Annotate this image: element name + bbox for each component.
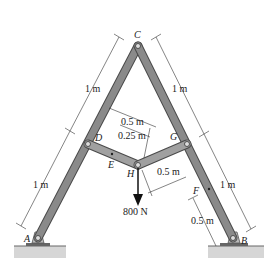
dim-dh: 0.5 m (121, 116, 144, 127)
label-d: D (94, 132, 103, 143)
dim-hg: 0.5 m (157, 166, 180, 177)
frame-diagram: C A B D E F G H 1 m 1 m 1 m 1 m 0.5 m 0.… (0, 0, 278, 278)
label-c: C (134, 29, 141, 40)
label-f: F (192, 185, 200, 196)
label-b: B (241, 235, 247, 246)
point-f-marker (208, 188, 210, 190)
dim-fb: 0.5 m (191, 215, 214, 226)
label-a: A (23, 233, 31, 244)
dim-cg-right: 1 m (172, 83, 188, 94)
dim-gb-right: 1 m (220, 179, 236, 190)
dim-cd-left: 1 m (85, 83, 101, 94)
dim-de: 0.25 m (118, 130, 146, 141)
load-arrow (133, 168, 143, 206)
label-e: E (107, 159, 114, 170)
label-h: H (126, 168, 135, 179)
label-g: G (170, 131, 177, 142)
dim-da-left: 1 m (33, 179, 49, 190)
point-e-marker (111, 153, 113, 155)
load-label: 800 N (123, 206, 148, 217)
